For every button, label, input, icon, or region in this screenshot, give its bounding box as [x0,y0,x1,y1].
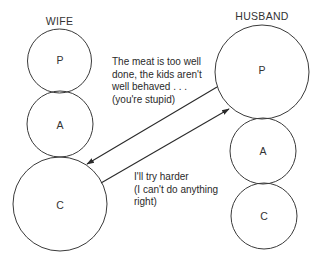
husband-label: HUSBAND [235,11,288,22]
response-line-3: right) [134,196,218,209]
husband-child-label: C [260,211,268,222]
wife-label: WIFE [46,16,73,27]
response-message: I'll try harder (I can't do anything rig… [134,171,218,209]
response-line-1: I'll try harder [134,171,218,184]
wife-child-label: C [56,200,64,211]
husband-adult-label: A [259,146,266,157]
stimulus-message: The meat is too well done, the kids aren… [112,56,202,106]
stimulus-line-4: (you're stupid) [112,94,202,107]
stimulus-line-1: The meat is too well [112,56,202,69]
wife-parent-label: P [56,55,63,66]
wife-adult-label: A [56,120,63,131]
crossed-transaction-diagram [0,0,319,264]
response-line-2: (I can't do anything [134,184,218,197]
husband-parent-label: P [258,65,265,76]
stimulus-line-3: well behaved . . . [112,81,202,94]
stimulus-line-2: done, the kids aren't [112,69,202,82]
